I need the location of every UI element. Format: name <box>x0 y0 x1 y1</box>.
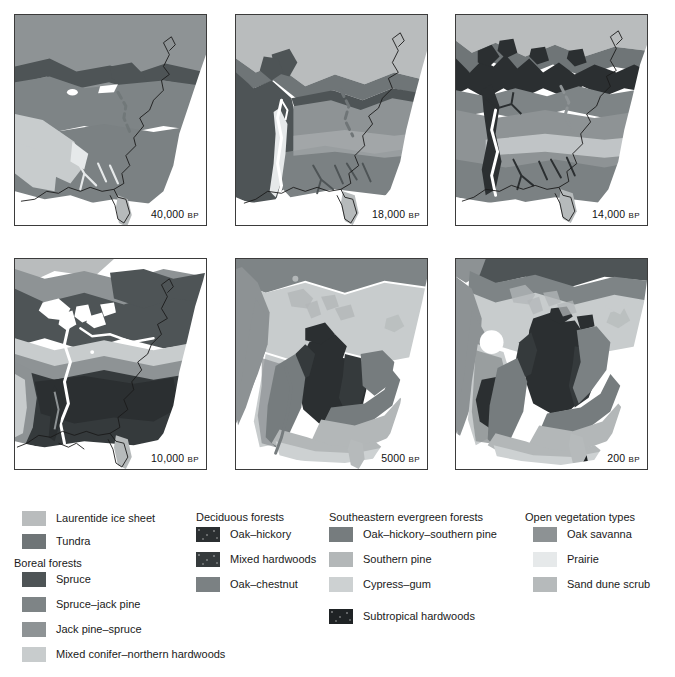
legend-swatch-cypress-gum <box>329 577 353 592</box>
legend-label: Sand dune scrub <box>567 577 650 592</box>
legend-heading-open-vegetation-types: Open vegetation types <box>525 511 635 523</box>
map-panel-18000bp[interactable]: 18,000 BP <box>235 14 428 226</box>
panel-age-label: 40,000 BP <box>151 209 199 220</box>
legend-swatch-sand-dune-scrub <box>533 577 557 592</box>
map-canvas <box>15 259 206 469</box>
map-panel-200bp[interactable]: 200 BP <box>455 258 648 470</box>
legend-swatch-oak-chestnut <box>196 577 220 592</box>
map-canvas <box>236 15 427 225</box>
legend-heading-boreal-forests: Boreal forests <box>14 557 82 569</box>
legend-heading-deciduous-forests: Deciduous forests <box>196 511 284 523</box>
legend-swatch-oak-savanna <box>533 527 557 542</box>
legend-swatch-tundra <box>22 534 46 549</box>
panel-age-label: 10,000 BP <box>151 453 199 464</box>
legend-label: Laurentide ice sheet <box>56 511 155 526</box>
map-canvas <box>456 15 647 225</box>
legend-label: Mixed conifer–northern hardwoods <box>56 647 225 662</box>
legend-label: Subtropical hardwoods <box>363 609 475 624</box>
legend-heading-southeastern-evergreen-forests: Southeastern evergreen forests <box>329 511 483 523</box>
legend-swatch-mixed-hardwoods <box>196 552 220 567</box>
legend-label: Cypress–gum <box>363 577 431 592</box>
legend-label: Oak–hickory <box>230 527 291 542</box>
panel-age-label: 200 BP <box>607 453 640 464</box>
legend-swatch-spruce <box>22 572 46 587</box>
panel-age-label: 14,000 BP <box>592 209 640 220</box>
legend-swatch-oak-hickory <box>196 527 220 542</box>
legend-label: Oak–hickory–southern pine <box>363 527 497 542</box>
map-panel-5000bp[interactable]: 5000 BP <box>235 258 428 470</box>
legend-swatch-southern-pine <box>329 552 353 567</box>
legend-label: Spruce–jack pine <box>56 597 140 612</box>
legend-label: Tundra <box>56 534 90 549</box>
legend-swatch-spruce-jack-pine <box>22 597 46 612</box>
map-canvas <box>236 259 427 469</box>
legend-swatch-subtropical-hardwoods <box>329 609 353 624</box>
legend-swatch-oak-hickory-southern-pine <box>329 527 353 542</box>
map-canvas <box>456 259 647 469</box>
legend-label: Mixed hardwoods <box>230 552 316 567</box>
legend-label: Oak savanna <box>567 527 632 542</box>
legend-label: Jack pine–spruce <box>56 622 142 637</box>
panel-age-label: 5000 BP <box>381 453 420 464</box>
map-panel-grid: 40,000 BP <box>0 0 675 492</box>
legend-swatch-prairie <box>533 552 557 567</box>
map-panel-14000bp[interactable]: 14,000 BP <box>455 14 648 226</box>
map-canvas <box>15 15 206 225</box>
legend-label: Spruce <box>56 572 91 587</box>
legend-label: Prairie <box>567 552 599 567</box>
map-panel-40000bp[interactable]: 40,000 BP <box>14 14 207 226</box>
legend-swatch-jack-pine-spruce <box>22 622 46 637</box>
map-panel-10000bp[interactable]: 10,000 BP <box>14 258 207 470</box>
legend-label: Southern pine <box>363 552 432 567</box>
legend-swatch-mixed-conifer-northern-hardwoods <box>22 647 46 662</box>
panel-age-label: 18,000 BP <box>372 209 420 220</box>
map-legend: Laurentide ice sheet Tundra Boreal fores… <box>0 497 675 677</box>
legend-label: Oak–chestnut <box>230 577 298 592</box>
legend-swatch-laurentide-ice-sheet <box>22 511 46 526</box>
